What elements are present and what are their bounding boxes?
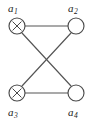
edge-group (22, 26, 71, 93)
node-a2[interactable]: a2 (68, 2, 84, 34)
graph-figure: a1 a2 a3 a4 (0, 0, 93, 120)
node-a1[interactable]: a1 (8, 2, 25, 34)
node-a1-label: a1 (8, 2, 18, 16)
node-a3-label: a3 (8, 106, 18, 120)
node-group: a1 a2 a3 a4 (8, 2, 84, 120)
node-a4-circle[interactable] (68, 85, 84, 101)
node-a4-label: a4 (68, 106, 78, 120)
node-a2-label: a2 (68, 2, 78, 16)
node-a3[interactable]: a3 (8, 85, 25, 120)
node-a2-circle[interactable] (68, 18, 84, 34)
graph-canvas: a1 a2 a3 a4 (0, 0, 93, 120)
node-a4[interactable]: a4 (68, 85, 84, 120)
